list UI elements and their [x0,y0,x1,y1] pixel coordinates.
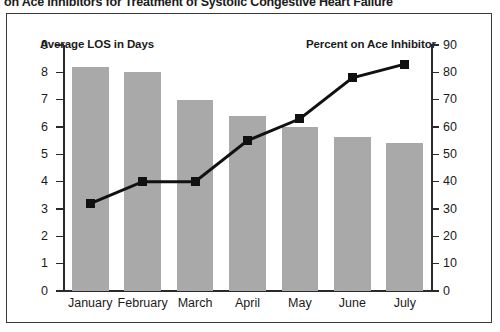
chart-title: on Ace Inhibitors for Treatment of Systo… [4,0,474,9]
legend-label-percent-ace-inhibitor: Percent on Ace Inhibitor [306,38,436,50]
chart-container: on Ace Inhibitors for Treatment of Systo… [0,0,500,332]
legend-label-average-los: Average LOS in Days [40,38,154,50]
chart-panel: Average LOS in Days Percent on Ace Inhib… [6,13,492,323]
